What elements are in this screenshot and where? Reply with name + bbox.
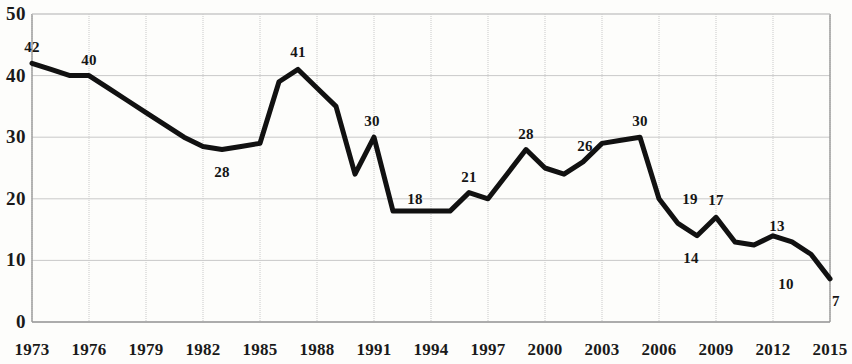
y-tick-label: 30 [0, 126, 26, 148]
line-chart: 01020304050 1973197619791982198519881991… [0, 0, 852, 364]
x-tick-label: 2003 [584, 340, 619, 360]
data-point-label: 18 [407, 191, 423, 208]
y-tick-label: 40 [0, 65, 26, 87]
data-point-label: 26 [577, 138, 593, 155]
y-tick-label: 50 [0, 3, 26, 25]
x-tick-label: 1979 [128, 340, 163, 360]
data-point-label: 21 [461, 169, 477, 186]
data-point-label: 28 [518, 126, 534, 143]
data-point-label: 7 [832, 293, 840, 310]
data-point-label: 30 [632, 113, 648, 130]
data-point-label: 30 [364, 113, 380, 130]
x-tick-label: 1973 [14, 340, 49, 360]
y-tick-label: 10 [0, 249, 26, 271]
x-tick-label: 1994 [413, 340, 448, 360]
x-tick-label: 2012 [755, 340, 790, 360]
chart-plot-area [0, 0, 852, 364]
data-point-label: 17 [708, 192, 724, 209]
x-tick-label: 2009 [698, 340, 733, 360]
data-point-label: 28 [214, 164, 230, 181]
x-tick-label: 1985 [242, 340, 277, 360]
data-point-label: 41 [290, 44, 306, 61]
x-tick-label: 1991 [356, 340, 391, 360]
y-tick-label: 0 [0, 311, 26, 333]
data-point-label: 13 [769, 218, 785, 235]
x-tick-label: 1997 [470, 340, 505, 360]
data-point-label: 40 [81, 52, 97, 69]
x-tick-label: 2000 [527, 340, 562, 360]
x-tick-label: 1976 [71, 340, 106, 360]
y-tick-label: 20 [0, 188, 26, 210]
data-point-label: 14 [683, 250, 699, 267]
grid-lines [32, 14, 830, 322]
data-point-label: 42 [24, 39, 40, 56]
data-point-label: 10 [778, 276, 794, 293]
x-tick-label: 2015 [812, 340, 847, 360]
x-tick-label: 2006 [641, 340, 676, 360]
data-point-label: 19 [682, 191, 698, 208]
x-tick-label: 1982 [185, 340, 220, 360]
x-tick-label: 1988 [299, 340, 334, 360]
